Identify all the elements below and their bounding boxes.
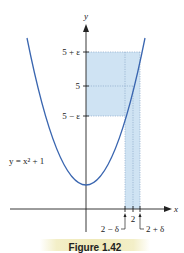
figure-caption: Figure 1.42 [40,242,150,253]
y-tick-label: 5 + ε [62,47,80,57]
y-tick-label: 5 [76,81,81,91]
x-axis-arrow-icon [164,206,172,212]
x-tick-label: 2 − δ [101,224,119,234]
delta-band [125,52,140,209]
x-tick-label: 2 [131,214,136,224]
y-axis-label: y [83,11,88,21]
x-axis-label: x [173,204,178,214]
leader-arrow-icon [139,213,142,217]
x-tick-label: 2 + δ [146,224,164,234]
y-tick-label: 5 − ε [62,111,80,121]
curve-label: y = x² + 1 [9,156,44,166]
y-axis-arrow-icon [83,24,89,32]
caption-bar: Figure 1.42 [40,239,150,251]
leader-arrow-icon [124,213,127,217]
